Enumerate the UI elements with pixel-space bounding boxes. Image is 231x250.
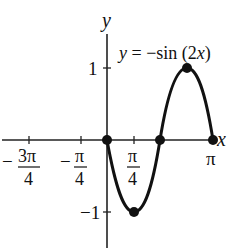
- x-axis-label: x: [216, 128, 226, 150]
- y-tick-label-neg1: −1: [80, 202, 100, 223]
- y-axis-label: y: [100, 9, 111, 32]
- x-tick-label-neg-3pi4-sign: −: [2, 151, 13, 172]
- sine-graph: y x y = −sin (2x) 1 −1 − 3π 4 − π 4 π 4 …: [0, 0, 231, 250]
- point-origin: [102, 135, 112, 145]
- equation-label: y = −sin (2x): [117, 43, 211, 64]
- point-min: [129, 207, 139, 217]
- x-tick-label-pi: π: [206, 148, 216, 169]
- x-tick-label-neg-3pi4-den: 4: [24, 169, 33, 189]
- x-tick-label-neg-3pi4-num: 3π: [18, 146, 36, 166]
- x-tick-label-pi4-num: π: [128, 146, 137, 166]
- point-max: [182, 63, 192, 73]
- x-tick-label-pi4-den: 4: [128, 169, 137, 189]
- point-zero-pi2: [155, 135, 165, 145]
- x-tick-label-neg-pi4-num: π: [75, 146, 84, 166]
- x-tick-label-neg-pi4-sign: −: [60, 151, 71, 172]
- x-tick-label-neg-pi4-den: 4: [75, 169, 84, 189]
- y-tick-label-1: 1: [88, 58, 98, 79]
